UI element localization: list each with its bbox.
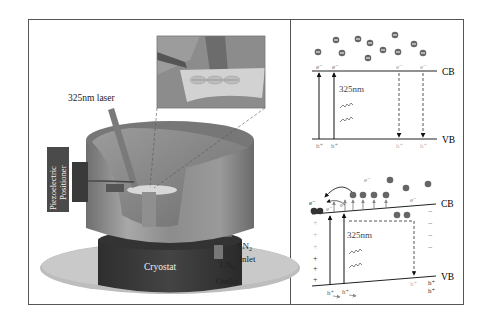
svg-text:+: +: [313, 264, 318, 273]
svg-text:e⁻: e⁻: [309, 199, 316, 207]
positioner-mount: [72, 162, 88, 202]
svg-text:+: +: [313, 275, 318, 284]
svg-text:h⁺: h⁺: [342, 288, 350, 296]
svg-text:+: +: [313, 218, 318, 227]
svg-text:e⁻: e⁻: [326, 205, 333, 213]
svg-text:h⁺: h⁺: [428, 279, 436, 287]
sample-inset: [157, 36, 265, 108]
svg-text:h⁺: h⁺: [410, 280, 418, 288]
svg-text:−: −: [428, 231, 433, 240]
wavelength-label: 325nm: [347, 230, 372, 240]
svg-text:+: +: [313, 230, 318, 239]
svg-text:h⁺: h⁺: [420, 142, 428, 150]
cb-label: CB: [442, 67, 455, 77]
wavelength-label: 325nm: [339, 84, 364, 94]
svg-text:e⁻: e⁻: [316, 63, 323, 71]
svg-text:−: −: [428, 219, 433, 228]
svg-text:+: +: [313, 242, 318, 251]
svg-text:e⁻: e⁻: [340, 201, 347, 209]
svg-text:e⁻: e⁻: [396, 63, 403, 71]
figure: Piezoelectric Positioner 325nm laser Cry…: [0, 0, 489, 323]
svg-text:e⁻: e⁻: [332, 63, 339, 71]
svg-text:h⁺: h⁺: [316, 142, 324, 150]
vb-label: VB: [442, 135, 455, 145]
svg-text:h⁺: h⁺: [331, 142, 339, 150]
svg-text:h⁺: h⁺: [428, 287, 436, 295]
cb-label: CB: [441, 199, 454, 209]
svg-text:+: +: [313, 254, 318, 263]
svg-text:−: −: [428, 207, 433, 216]
svg-text:e⁻: e⁻: [420, 63, 427, 71]
svg-text:e⁻: e⁻: [364, 176, 371, 184]
svg-text:e⁻: e⁻: [410, 196, 417, 204]
ln2-inlet-word: Inlet: [239, 254, 256, 264]
ln2-outlet-word: Outlet: [216, 276, 239, 286]
svg-text:h⁺: h⁺: [396, 142, 404, 150]
cryostat-label: Cryostat: [144, 262, 177, 272]
svg-text:−: −: [428, 243, 433, 252]
laser-label: 325nm laser: [68, 93, 116, 103]
vb-label: VB: [441, 272, 454, 282]
